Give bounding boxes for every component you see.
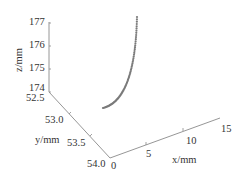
data-point — [135, 36, 137, 38]
data-point — [133, 54, 135, 56]
x-tick-1: 5 — [146, 148, 151, 159]
data-point — [136, 23, 138, 25]
z-tick-2: 175 — [29, 62, 45, 73]
data-point — [136, 25, 138, 27]
y-axis-label: y/mm — [35, 134, 60, 145]
data-point — [136, 21, 138, 23]
z-tick-0: 177 — [29, 16, 45, 27]
data-point — [135, 34, 137, 36]
data-point — [135, 38, 137, 40]
data-point — [136, 18, 138, 20]
data-point — [134, 48, 136, 50]
data-point — [133, 52, 135, 54]
x-tick-0: 0 — [111, 160, 116, 171]
data-point — [135, 27, 137, 29]
x-axis: 0 5 10 15 x/mm — [110, 118, 232, 171]
data-point — [136, 16, 138, 18]
z-tick-1: 176 — [29, 39, 45, 50]
y-tick-3: 54.0 — [87, 158, 105, 169]
data-point — [134, 42, 136, 44]
x-tick-2: 10 — [186, 135, 197, 146]
z-axis: 177 176 175 174 z/mm — [13, 16, 51, 93]
data-point — [134, 46, 136, 48]
data-point — [133, 50, 135, 52]
data-series-trajectory — [102, 16, 138, 109]
data-point — [135, 32, 137, 34]
data-point — [135, 30, 137, 32]
y-tick-1: 53.0 — [45, 114, 63, 125]
3d-scatter-plot: 177 176 175 174 z/mm 52.5 53.0 53.5 54.0… — [0, 0, 243, 181]
data-point — [134, 44, 136, 46]
x-axis-label: x/mm — [172, 154, 197, 165]
data-point — [135, 40, 137, 42]
y-axis: 52.5 53.0 53.5 54.0 y/mm — [26, 92, 110, 169]
x-tick-3: 15 — [221, 123, 232, 134]
y-tick-0: 52.5 — [26, 92, 44, 103]
z-axis-label: z/mm — [13, 48, 24, 72]
y-tick-2: 53.5 — [67, 137, 85, 148]
